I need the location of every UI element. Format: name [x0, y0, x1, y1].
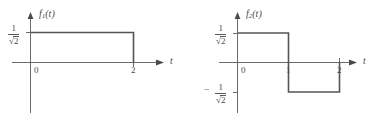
y-axis-amplitude-label-f2: 1 √2	[215, 24, 226, 46]
signal-waveform-f1	[31, 33, 134, 63]
x-axis-arrowhead	[349, 59, 357, 65]
y-axis-arrowhead	[235, 12, 241, 19]
x-axis-arrowhead	[156, 59, 164, 65]
amplitude-numerator-f2: 1	[215, 24, 226, 35]
function-label-f1: f1(t)	[39, 9, 55, 20]
sqrt-radicand-f2: 2	[220, 36, 227, 46]
neg-amplitude-numerator-f2: 1	[215, 83, 226, 94]
plot-f1-graphics	[0, 0, 191, 119]
amplitude-denominator-f1: √2	[8, 35, 19, 46]
amplitude-denominator-f2: √2	[215, 35, 226, 46]
function-label-f2-arg: (t)	[252, 8, 261, 19]
x-tick-label-0-f2: 0	[241, 66, 246, 75]
plot-f2: f2(t) t 1 √2 − 1 √2 0 1 2	[191, 0, 383, 119]
neg-amplitude-denominator-f2: √2	[215, 94, 226, 105]
figure-canvas: f1(t) t 1 √2 0 2	[0, 0, 383, 119]
sqrt-radicand-f1: 2	[13, 36, 20, 46]
sqrt-icon: √2	[8, 36, 19, 46]
sqrt-icon: √2	[215, 95, 226, 105]
function-label-f2: f2(t)	[246, 9, 262, 20]
x-tick-label-1-f2: 1	[286, 66, 291, 75]
y-axis-amplitude-label-f1: 1 √2	[8, 24, 19, 46]
y-axis-negative-amplitude-label-f2: 1 √2	[215, 83, 226, 105]
x-tick-label-2-f1: 2	[131, 66, 136, 75]
plot-f1: f1(t) t 1 √2 0 2	[0, 0, 191, 119]
negative-sign-f2: −	[204, 84, 209, 94]
x-tick-label-2-f2: 2	[337, 66, 342, 75]
y-axis-arrowhead	[28, 12, 34, 19]
neg-sqrt-radicand-f2: 2	[220, 95, 227, 105]
amplitude-numerator-f1: 1	[8, 24, 19, 35]
x-axis-label-f1: t	[170, 57, 173, 67]
x-axis-label-f2: t	[363, 57, 366, 67]
sqrt-icon: √2	[215, 36, 226, 46]
x-tick-label-0-f1: 0	[34, 66, 39, 75]
function-label-f1-arg: (t)	[45, 8, 54, 19]
